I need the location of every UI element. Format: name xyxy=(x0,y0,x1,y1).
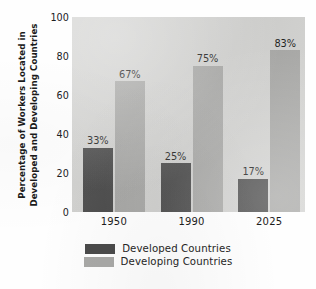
bar-group: 25%75% xyxy=(161,17,223,212)
y-axis-tick-label: 80 xyxy=(44,51,69,62)
legend-color-swatch xyxy=(84,257,114,267)
bar-value-label: 33% xyxy=(87,135,108,146)
y-axis-title: Percentage of Workers Located in Develop… xyxy=(13,16,43,213)
y-axis-title-line-1: Percentage of Workers Located in xyxy=(17,23,29,206)
chart-legend: Developed CountriesDeveloping Countries xyxy=(0,243,316,267)
y-axis-tick-label: 40 xyxy=(44,129,69,140)
y-axis-tick-labels: 020406080100 xyxy=(44,17,69,212)
x-axis-tick-label: 1990 xyxy=(178,216,204,227)
bar-value-label: 83% xyxy=(274,38,295,49)
bar-value-label: 75% xyxy=(197,53,218,64)
bar xyxy=(83,148,113,212)
y-axis-title-line-2: Developed and Developing Countries xyxy=(28,23,40,206)
legend-label: Developed Countries xyxy=(122,243,231,254)
bar xyxy=(270,50,300,212)
x-axis-tick-label: 1950 xyxy=(101,216,127,227)
bar-value-label: 67% xyxy=(119,69,140,80)
bar-group: 33%67% xyxy=(83,17,145,212)
legend-label: Developing Countries xyxy=(121,256,233,267)
plot-area: 33%67%25%75%17%83% xyxy=(72,17,305,212)
x-axis-tick-labels: 195019902025 xyxy=(72,216,305,232)
bar xyxy=(161,163,191,212)
y-axis-tick-label: 60 xyxy=(44,90,69,101)
bar-chart-figure: Percentage of Workers Located in Develop… xyxy=(0,0,316,289)
bar xyxy=(238,179,268,212)
bar-value-label: 17% xyxy=(242,166,263,177)
legend-color-swatch xyxy=(85,244,115,254)
y-axis-tick-label: 100 xyxy=(44,12,69,23)
y-axis-tick-label: 20 xyxy=(44,168,69,179)
legend-item[interactable]: Developing Countries xyxy=(84,256,233,267)
legend-item[interactable]: Developed Countries xyxy=(85,243,231,254)
x-axis-tick-label: 2025 xyxy=(256,216,282,227)
bar-group: 17%83% xyxy=(238,17,300,212)
bar-value-label: 25% xyxy=(165,151,186,162)
y-axis-tick-label: 0 xyxy=(44,207,69,218)
bar xyxy=(115,81,145,212)
bar xyxy=(193,66,223,212)
